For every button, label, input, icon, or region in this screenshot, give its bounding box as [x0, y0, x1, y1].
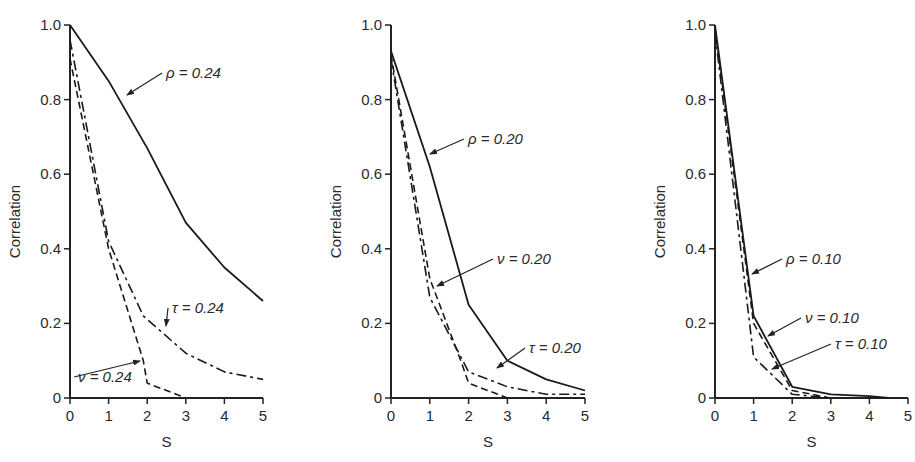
y-tick-label: 0.8	[361, 91, 382, 108]
x-axis-label: S	[483, 433, 493, 450]
x-tick-label: 5	[581, 407, 589, 424]
correlation-figure: 00.20.40.60.81.0012345SCorrelationρ = 0.…	[0, 0, 915, 462]
x-tick-label: 2	[788, 407, 796, 424]
chart-panel-2: 00.20.40.60.81.0012345SCorrelationρ = 0.…	[327, 16, 589, 450]
x-tick-label: 3	[182, 407, 190, 424]
series-annotation: τ = 0.24	[172, 299, 224, 316]
y-tick-label: 0.2	[361, 314, 382, 331]
x-tick-label: 5	[259, 407, 267, 424]
series-line	[715, 29, 831, 398]
series-annotation: ρ = 0.20	[467, 130, 524, 147]
x-tick-label: 3	[503, 407, 511, 424]
y-axis-label: Correlation	[651, 185, 668, 258]
series-line	[715, 33, 831, 399]
y-axis-label: Correlation	[6, 185, 23, 258]
x-tick-label: 2	[143, 407, 151, 424]
y-tick-label: 0.4	[361, 240, 382, 257]
y-tick-label: 0	[53, 389, 61, 406]
annotation-arrow	[430, 139, 464, 154]
annotation-arrow	[772, 344, 831, 369]
annotation-arrow	[437, 259, 493, 286]
series-annotation: τ = 0.20	[529, 339, 582, 356]
y-tick-label: 1.0	[361, 16, 382, 33]
series-line	[70, 40, 263, 380]
y-tick-label: 0.8	[40, 91, 61, 108]
y-tick-label: 0.2	[40, 314, 61, 331]
series-line	[391, 55, 507, 398]
y-tick-label: 0.6	[685, 165, 706, 182]
x-axis-label: S	[806, 433, 816, 450]
x-tick-label: 0	[387, 407, 395, 424]
y-tick-label: 0.6	[361, 165, 382, 182]
series-annotation: ρ = 0.24	[165, 64, 221, 81]
chart-panel-1: 00.20.40.60.81.0012345SCorrelationρ = 0.…	[6, 16, 267, 450]
x-tick-label: 1	[104, 407, 112, 424]
y-tick-label: 0.4	[40, 240, 61, 257]
y-tick-label: 0	[698, 389, 706, 406]
series-annotation: ν = 0.10	[805, 309, 859, 326]
y-tick-label: 1.0	[40, 16, 61, 33]
x-tick-label: 3	[827, 407, 835, 424]
annotation-arrow	[768, 318, 801, 336]
y-axis-label: Correlation	[327, 185, 344, 258]
series-line	[70, 59, 186, 398]
x-tick-label: 2	[464, 407, 472, 424]
x-tick-label: 4	[865, 407, 873, 424]
x-axis-label: S	[161, 433, 171, 450]
series-annotation: τ = 0.10	[835, 335, 888, 352]
x-tick-label: 4	[220, 407, 228, 424]
y-tick-label: 0.8	[685, 91, 706, 108]
series-annotation: ν = 0.20	[497, 250, 551, 267]
series-annotation: ρ = 0.10	[785, 250, 842, 267]
y-tick-label: 0	[374, 389, 382, 406]
annotation-arrow	[166, 308, 168, 326]
annotation-arrow	[127, 73, 162, 95]
y-tick-label: 0.2	[685, 314, 706, 331]
annotation-arrow	[752, 259, 782, 274]
y-tick-label: 0.4	[685, 240, 706, 257]
x-tick-label: 5	[904, 407, 912, 424]
chart-panel-3: 00.20.40.60.81.0012345SCorrelationρ = 0.…	[651, 16, 912, 450]
y-tick-label: 1.0	[685, 16, 706, 33]
y-tick-label: 0.6	[40, 165, 61, 182]
x-tick-label: 0	[711, 407, 719, 424]
x-tick-label: 1	[749, 407, 757, 424]
x-tick-label: 0	[66, 407, 74, 424]
series-annotation: ν = 0.24	[78, 368, 132, 385]
x-tick-label: 1	[426, 407, 434, 424]
x-tick-label: 4	[542, 407, 550, 424]
